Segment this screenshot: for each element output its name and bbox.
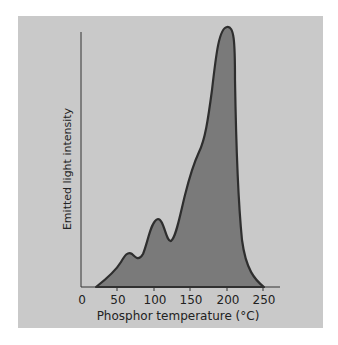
glow-curve-area <box>96 27 264 287</box>
x-tick-250: 250 <box>253 293 276 307</box>
x-tick-150: 150 <box>180 293 203 307</box>
glow-curve-chart: 0 50 100 150 200 250 Phosphor temperatur… <box>0 0 338 345</box>
x-tick-0: 0 <box>78 293 86 307</box>
x-tick-200: 200 <box>217 293 240 307</box>
x-tick-labels: 0 50 100 150 200 250 <box>78 293 275 307</box>
x-axis-label: Phosphor temperature (°C) <box>97 309 260 323</box>
x-tick-50: 50 <box>110 293 125 307</box>
y-axis-label: Emitted light intensity <box>61 107 74 230</box>
x-tick-100: 100 <box>144 293 167 307</box>
